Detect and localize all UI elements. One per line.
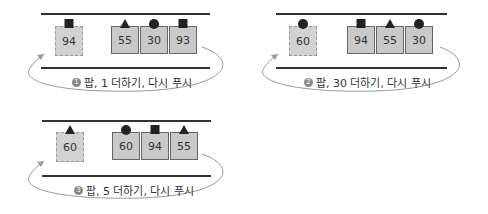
stack-box: 94	[347, 26, 375, 54]
panel-step-2: 60 94 55 30 2 팝, 30 더하기, 다시 푸시	[244, 0, 488, 107]
box-value: 55	[118, 34, 132, 47]
box-value: 60	[63, 141, 77, 154]
box-value: 55	[177, 140, 191, 153]
stack-box: 55	[170, 132, 198, 160]
box-value: 55	[383, 34, 397, 47]
box-value: 94	[148, 140, 162, 153]
circle-icon	[298, 19, 308, 29]
box-value: 94	[62, 35, 76, 48]
panel-step-1: 94 55 30 93 1 팝, 1 더하기, 다시 푸시	[0, 0, 244, 107]
stack-box: 60	[112, 132, 140, 160]
step-caption: 1 팝, 1 더하기, 다시 푸시	[72, 74, 192, 90]
panel-step-3: 60 60 94 55 3 팝, 5 더하기, 다시 푸시	[0, 107, 244, 214]
triangle-icon	[385, 19, 395, 28]
step-caption: 2 팝, 30 더하기, 다시 푸시	[304, 74, 431, 90]
stack-box: 30	[405, 26, 433, 54]
stack-box: 30	[140, 26, 168, 54]
step-number-badge: 2	[304, 78, 313, 87]
caption-text: 팝, 5 더하기, 다시 푸시	[86, 182, 194, 198]
step-number-badge: 3	[74, 186, 83, 195]
circle-icon	[121, 125, 131, 135]
step-caption: 3 팝, 5 더하기, 다시 푸시	[74, 182, 194, 198]
queue-bottom-line	[42, 175, 211, 177]
triangle-icon	[65, 125, 75, 134]
stack-box: 93	[169, 26, 197, 54]
box-value: 30	[147, 34, 161, 47]
box-value: 30	[412, 34, 426, 47]
square-icon	[65, 19, 74, 28]
caption-text: 팝, 1 더하기, 다시 푸시	[84, 74, 192, 90]
popped-box: 60	[56, 132, 84, 162]
stack-box: 55	[376, 26, 404, 54]
square-icon	[179, 19, 188, 28]
queue-top-line	[41, 13, 210, 15]
queue-bottom-line	[41, 67, 210, 69]
queue-top-line	[42, 120, 211, 122]
queue-bottom-line	[276, 67, 447, 69]
queue-top-line	[276, 13, 447, 15]
square-icon	[357, 19, 366, 28]
stack-box: 55	[111, 26, 139, 54]
triangle-icon	[179, 125, 189, 134]
circle-icon	[149, 19, 159, 29]
popped-box: 94	[55, 26, 83, 56]
box-value: 94	[354, 34, 368, 47]
stack-box: 94	[141, 132, 169, 160]
square-icon	[151, 125, 160, 134]
caption-text: 팝, 30 더하기, 다시 푸시	[316, 74, 431, 90]
circle-icon	[414, 19, 424, 29]
box-value: 60	[119, 140, 133, 153]
box-value: 60	[296, 35, 310, 48]
triangle-icon	[120, 19, 130, 28]
popped-box: 60	[289, 26, 317, 56]
box-value: 93	[176, 34, 190, 47]
step-number-badge: 1	[72, 78, 81, 87]
